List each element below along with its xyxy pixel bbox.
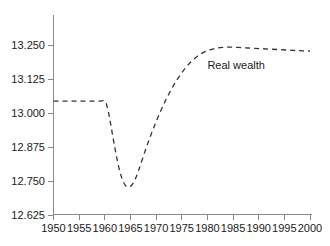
y-tick-label: 13.250 [11, 39, 45, 51]
x-tick-label: 1990 [246, 222, 270, 234]
y-tick-label: 13.125 [11, 73, 45, 85]
series-line-real-wealth [54, 47, 311, 187]
x-tick-group: 1950195519601965197019751980198519901995… [41, 215, 322, 234]
real-wealth-line-chart: 12.62512.75012.87513.00013.12513.250 195… [0, 0, 330, 246]
x-tick-label: 1975 [170, 222, 194, 234]
data-series-group [54, 47, 311, 187]
x-tick-label: 1970 [144, 222, 168, 234]
y-tick-label: 12.750 [11, 175, 45, 187]
y-axis: 12.62512.75012.87513.00013.12513.250 [11, 15, 53, 221]
x-tick-label: 1950 [41, 222, 65, 234]
x-tick-label: 1980 [195, 222, 219, 234]
x-axis: 1950195519601965197019751980198519901995… [41, 215, 322, 235]
y-tick-label: 13.000 [11, 107, 45, 119]
y-tick-label: 12.625 [11, 209, 45, 221]
x-tick-label: 1995 [272, 222, 296, 234]
x-tick-label: 1955 [67, 222, 91, 234]
x-tick-label: 1985 [221, 222, 245, 234]
x-tick-label: 1960 [93, 222, 117, 234]
y-tick-label: 12.875 [11, 141, 45, 153]
y-tick-group: 12.62512.75012.87513.00013.12513.250 [11, 39, 53, 221]
series-annotation-real-wealth: Real wealth [207, 59, 264, 71]
x-tick-label: 1965 [118, 222, 142, 234]
x-tick-label: 2000 [298, 222, 322, 234]
chart-container: 12.62512.75012.87513.00013.12513.250 195… [0, 0, 330, 246]
annotation-group: Real wealth [207, 59, 264, 71]
